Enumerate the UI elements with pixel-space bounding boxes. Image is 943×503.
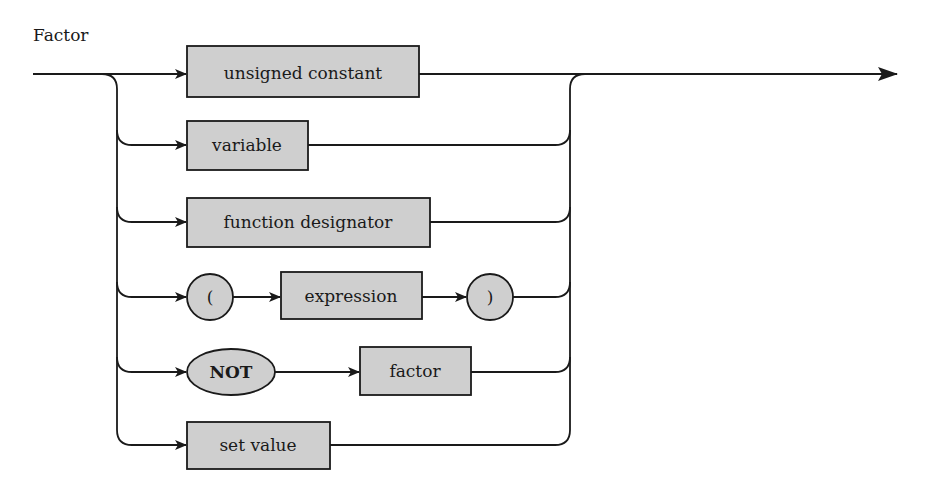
nonterminal-label: variable	[211, 135, 282, 155]
nonterminal-label: set value	[219, 435, 296, 455]
merge-line	[471, 357, 570, 372]
keyword-label: NOT	[210, 362, 253, 382]
alt-function-designator: function designator	[117, 198, 570, 247]
right-rail	[555, 74, 585, 445]
merge-line	[513, 282, 570, 297]
terminal-label: )	[487, 287, 494, 307]
alt-parenthesized-expression: ( expression )	[117, 272, 570, 320]
branch-line	[117, 207, 186, 222]
merge-line	[308, 130, 570, 145]
syntax-diagram-factor: Factor unsigned constant variable functi…	[0, 0, 943, 503]
diagram-title: Factor	[33, 25, 89, 45]
nonterminal-label: unsigned constant	[224, 63, 383, 83]
left-rail	[102, 74, 132, 445]
merge-line	[430, 207, 570, 222]
branch-line	[117, 130, 186, 145]
alt-variable: variable	[117, 121, 570, 170]
branch-line	[117, 357, 186, 372]
terminal-label: (	[207, 287, 214, 307]
branch-line	[117, 282, 186, 297]
alt-unsigned-constant: unsigned constant	[187, 46, 419, 97]
alt-set-value: set value	[132, 422, 555, 469]
nonterminal-label: function designator	[224, 212, 394, 232]
nonterminal-label: expression	[305, 286, 398, 306]
nonterminal-label: factor	[389, 361, 441, 381]
alt-not-factor: NOT factor	[117, 347, 570, 395]
